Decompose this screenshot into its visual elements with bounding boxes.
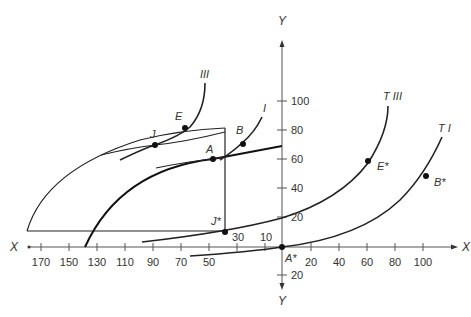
svg-text:30: 30	[232, 231, 244, 243]
svg-text:20: 20	[305, 256, 317, 268]
svg-text:70: 70	[175, 256, 187, 268]
svg-text:100: 100	[414, 256, 432, 268]
x-axis-label-right: X	[461, 240, 471, 254]
label-curve-I: I	[263, 102, 266, 114]
label-point-J-star: J*	[210, 215, 222, 227]
point-E-star	[365, 158, 371, 164]
x-tick-labels-right: 20 40 60 80 100	[305, 256, 432, 268]
point-A-star	[279, 244, 285, 250]
label-point-E-star: E*	[377, 160, 389, 172]
curve-T-III	[142, 106, 388, 242]
svg-text:60: 60	[291, 153, 303, 165]
label-curve-T-I: T I	[438, 122, 451, 134]
x-axis-label-left: X	[9, 240, 19, 254]
production-box	[27, 128, 225, 232]
y-axis-arrow-up-icon	[280, 40, 285, 47]
svg-text:40: 40	[291, 182, 303, 194]
svg-text:130: 130	[88, 256, 106, 268]
svg-text:50: 50	[203, 256, 215, 268]
point-J-star	[222, 229, 228, 235]
point-B-star	[423, 173, 429, 179]
label-point-J: J	[149, 128, 156, 140]
svg-text:20: 20	[291, 211, 303, 223]
svg-text:20: 20	[291, 269, 303, 281]
offer-curve	[85, 146, 282, 247]
svg-text:10: 10	[260, 231, 272, 243]
y-axis-label-top: Y	[278, 14, 287, 28]
label-point-A-star: A*	[284, 252, 297, 264]
x-axis-arrow-right-icon	[451, 245, 458, 250]
label-point-B: B	[236, 124, 243, 136]
svg-text:100: 100	[291, 95, 309, 107]
point-A	[210, 156, 216, 162]
label-point-B-star: B*	[434, 176, 446, 188]
svg-text:80: 80	[291, 124, 303, 136]
label-point-A: A	[205, 143, 213, 155]
point-J	[152, 142, 158, 148]
svg-text:40: 40	[333, 256, 345, 268]
label-curve-T-III: T III	[383, 90, 402, 102]
svg-text:150: 150	[60, 256, 78, 268]
svg-text:60: 60	[361, 256, 373, 268]
trade-diagram: X X Y Y 170 150 130 110 90 70 50 30 10 2…	[0, 0, 471, 317]
svg-text:110: 110	[116, 256, 134, 268]
svg-text:90: 90	[147, 256, 159, 268]
svg-text:170: 170	[32, 256, 50, 268]
point-B	[240, 141, 246, 147]
label-point-E: E	[175, 110, 183, 122]
y-axis-arrow-down-icon	[280, 283, 285, 290]
y-axis-label-bottom: Y	[278, 294, 287, 308]
x-tick-labels-left: 170 150 130 110 90 70 50 30 10	[32, 231, 272, 268]
point-E	[182, 125, 188, 131]
label-curve-III: III	[200, 68, 209, 80]
x-axis-left-end-icon	[28, 246, 31, 249]
svg-text:80: 80	[389, 256, 401, 268]
x-axis	[28, 243, 459, 251]
